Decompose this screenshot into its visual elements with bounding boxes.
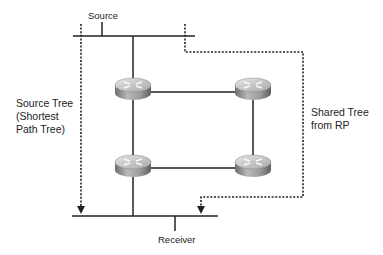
router-top-right — [235, 78, 271, 100]
router-bottom-right — [235, 155, 271, 177]
source-tree-label-line2: (Shortest — [16, 110, 59, 122]
source-tree-label-line3: Path Tree) — [16, 123, 65, 135]
shared-tree-arrow-icon — [197, 206, 205, 214]
shared-tree-label-line2: from RP — [311, 119, 350, 131]
source-tree-label-line1: Source Tree — [16, 97, 73, 109]
source-label: Source — [88, 10, 118, 22]
shared-tree-path — [185, 24, 303, 207]
source-tree-arrow-icon — [77, 206, 85, 214]
router-top-left — [115, 78, 151, 100]
receiver-label: Receiver — [158, 234, 196, 246]
router-bottom-left — [115, 155, 151, 177]
shared-tree-label-line1: Shared Tree — [311, 106, 369, 118]
